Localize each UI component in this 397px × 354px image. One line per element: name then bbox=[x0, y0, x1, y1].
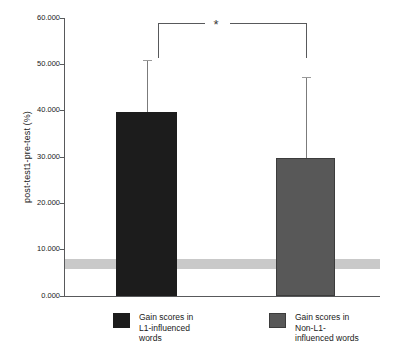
error-bar-cap bbox=[302, 77, 311, 78]
bar-l1-influenced-words[interactable] bbox=[116, 112, 177, 296]
significance-bracket-right-arm bbox=[230, 23, 306, 25]
legend-item-label: Gain scores in L1-influenced words bbox=[139, 312, 193, 344]
y-axis-tick-labels: 60.000 50.000 40.000 30.000 20.000 10.00… bbox=[12, 0, 60, 354]
y-tick-label: 50.000 bbox=[16, 60, 60, 68]
y-tick-label: 0.000 bbox=[16, 292, 60, 300]
error-bar-line bbox=[147, 61, 148, 112]
y-tick-label: 20.000 bbox=[16, 199, 60, 207]
gray-square-swatch-icon bbox=[269, 313, 286, 328]
error-bar-cap bbox=[143, 60, 152, 61]
legend-item-l1-influenced[interactable]: Gain scores in L1-influenced words bbox=[113, 312, 193, 344]
y-tick-label: 30.000 bbox=[16, 153, 60, 161]
chart-legend: Gain scores in L1-influenced words Gain … bbox=[0, 308, 397, 354]
x-axis-line bbox=[64, 296, 380, 297]
plot-area bbox=[65, 18, 380, 296]
legend-item-label: Gain scores in Non-L1- influenced words bbox=[295, 312, 359, 344]
y-tick-label: 10.000 bbox=[16, 245, 60, 253]
y-tick-label: 60.000 bbox=[16, 14, 60, 22]
significance-asterisk: * bbox=[214, 18, 219, 31]
significance-bracket-left-post bbox=[158, 23, 160, 58]
dark-square-swatch-icon bbox=[113, 313, 130, 328]
error-bar-line bbox=[306, 78, 307, 158]
bar-chart-figure: post-test1-pre-test (%) 60.000 50.000 40… bbox=[0, 0, 397, 354]
significance-bracket-right-post bbox=[306, 23, 308, 58]
legend-item-non-l1-influenced[interactable]: Gain scores in Non-L1- influenced words bbox=[269, 312, 359, 344]
bar-non-l1-influenced-words[interactable] bbox=[276, 158, 335, 296]
y-tick-label: 40.000 bbox=[16, 106, 60, 114]
significance-bracket-left-arm bbox=[158, 23, 206, 25]
